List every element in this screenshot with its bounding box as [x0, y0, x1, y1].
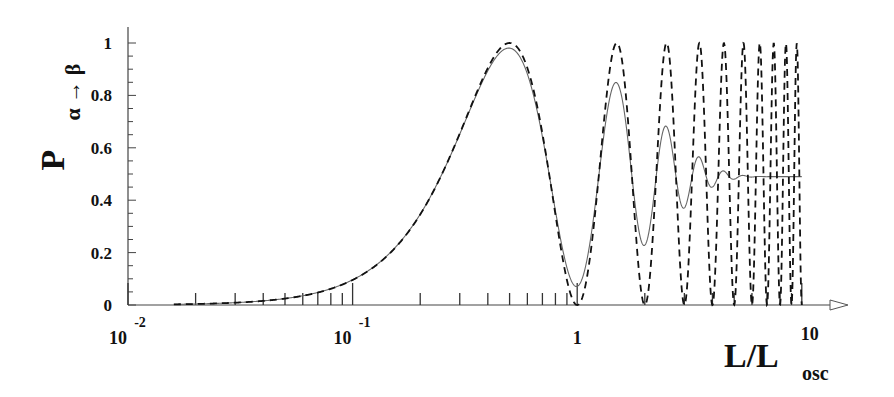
y-tick-label: 0.6 — [91, 139, 112, 158]
y-tick-label: 0.4 — [91, 191, 113, 210]
x-axis-label-sub: osc — [802, 362, 829, 384]
x-tick-exponent: -1 — [359, 315, 371, 330]
y-tick-label: 0.8 — [91, 86, 112, 105]
y-tick-label: 0.2 — [91, 244, 112, 263]
axes: 00.20.40.60.8110-210-1110 — [91, 27, 848, 348]
y-axis-label-sub: α → β — [60, 64, 85, 121]
x-tick-label: 1 — [573, 328, 582, 348]
solid-curve — [174, 48, 802, 304]
x-tick-label: 10 — [109, 328, 127, 348]
dashed-curve — [174, 43, 802, 305]
x-axis-arrow-icon — [830, 300, 848, 310]
x-tick-exponent: -2 — [134, 315, 146, 330]
x-tick-label: 10 — [334, 328, 352, 348]
curves — [174, 43, 802, 305]
x-tick-label: 10 — [801, 324, 819, 344]
y-tick-label: 0 — [104, 296, 113, 315]
y-tick-label: 1 — [104, 34, 113, 53]
y-axis-label-main: P — [34, 150, 71, 171]
probability-chart: 00.20.40.60.8110-210-1110 P α → β L/L os… — [0, 0, 894, 397]
x-axis-label-main: L/L — [724, 337, 779, 374]
labels: P α → β L/L osc — [34, 64, 829, 384]
